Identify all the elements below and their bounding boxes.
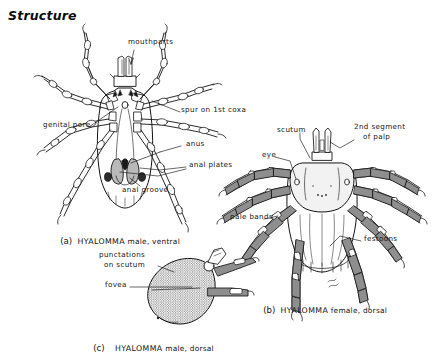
caption-b-letter: (b)	[263, 305, 275, 315]
caption-c: (c) HYALOMMA male, dorsal	[88, 334, 214, 353]
caption-b: (b) HYALOMMA female, dorsal	[258, 296, 387, 315]
label-fovea: fovea	[105, 280, 127, 290]
label-anal-plates: anal plates	[189, 160, 232, 170]
caption-c-genus: HYALOMMA	[115, 344, 163, 353]
caption-a-letter: (a)	[60, 236, 72, 246]
label-anus: anus	[186, 139, 205, 149]
label-mouthparts: mouthparts	[128, 37, 173, 47]
caption-a: (a) HYALOMMA male, ventral	[55, 227, 180, 246]
caption-c-rest: male, dorsal	[165, 344, 214, 353]
caption-a-rest: male, ventral	[128, 237, 180, 246]
label-on-scutum: on scutum	[104, 260, 145, 270]
figure-c-male-dorsal	[130, 248, 259, 324]
label-punctations: punctations	[99, 250, 145, 260]
figure-b-female-dorsal	[217, 128, 427, 321]
caption-b-rest: female, dorsal	[331, 306, 387, 315]
caption-b-genus: HYALOMMA	[281, 306, 329, 315]
label-scutum: scutum	[277, 125, 306, 135]
label-pale-bands: pale bands	[230, 212, 273, 222]
label-2nd-segment: 2nd segment	[354, 122, 405, 132]
label-anal-groove: anal groove	[122, 185, 168, 195]
label-festoons: festoons	[364, 234, 397, 244]
label-spur-on-1st-coxa: spur on 1st coxa	[181, 105, 246, 115]
label-eye: eye	[262, 150, 276, 160]
label-genital-pore: genital pore	[43, 120, 90, 130]
label-of-palp: of palp	[363, 132, 390, 142]
caption-c-letter: (c)	[93, 343, 104, 353]
caption-a-genus: HYALOMMA	[77, 237, 125, 246]
